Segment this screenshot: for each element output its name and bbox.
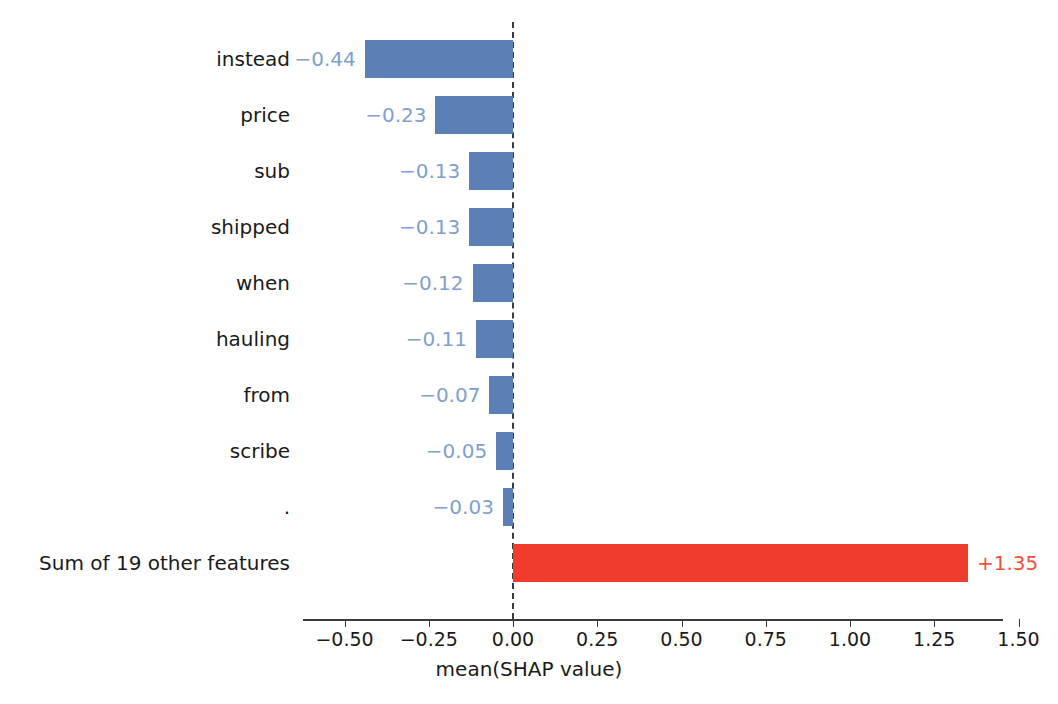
bar-row-label: when: [0, 255, 290, 311]
bar: [476, 320, 513, 358]
x-axis-tick: [850, 619, 851, 627]
bar-row-label: price: [0, 87, 290, 143]
bar-value-label: −0.03: [433, 479, 494, 535]
x-axis-title: mean(SHAP value): [0, 657, 1058, 681]
x-axis-tick-label: 0.00: [492, 628, 534, 650]
x-axis-tick: [934, 619, 935, 627]
bar: [496, 432, 513, 470]
bar: [469, 208, 513, 246]
x-axis-tick-label: 0.75: [745, 628, 787, 650]
bar-row-label: from: [0, 367, 290, 423]
bar-value-label: −0.11: [406, 311, 467, 367]
bar-value-label: −0.13: [399, 199, 460, 255]
bar-row-label: sub: [0, 143, 290, 199]
x-axis-tick: [597, 619, 598, 627]
x-axis-tick-label: −0.25: [400, 628, 458, 650]
bar-row: Sum of 19 other features+1.35: [0, 535, 1058, 591]
x-axis-tick-label: 1.00: [829, 628, 871, 650]
bar-row: when−0.12: [0, 255, 1058, 311]
bar-row-label: .: [0, 479, 290, 535]
bar-row-label: Sum of 19 other features: [0, 535, 290, 591]
bar-value-label: −0.07: [419, 367, 480, 423]
bar: [489, 376, 513, 414]
x-axis-tick: [429, 619, 430, 627]
x-axis-tick: [766, 619, 767, 627]
bar: [469, 152, 513, 190]
bar-row: shipped−0.13: [0, 199, 1058, 255]
plot-area: instead−0.44price−0.23sub−0.13shipped−0.…: [0, 0, 1058, 704]
x-axis-tick-label: 0.50: [660, 628, 702, 650]
bar-value-label: −0.23: [365, 87, 426, 143]
bar-row: sub−0.13: [0, 143, 1058, 199]
bar-row: instead−0.44: [0, 31, 1058, 87]
x-axis-tick-label: 1.50: [997, 628, 1039, 650]
bar-row-label: hauling: [0, 311, 290, 367]
bar-row: .−0.03: [0, 479, 1058, 535]
bar: [513, 544, 968, 582]
bar-row: price−0.23: [0, 87, 1058, 143]
bar-value-label: +1.35: [977, 535, 1038, 591]
bar-row-label: scribe: [0, 423, 290, 479]
bar: [473, 264, 513, 302]
bar-row-label: instead: [0, 31, 290, 87]
x-axis-tick: [513, 619, 514, 627]
bar: [435, 96, 513, 134]
x-axis-tick: [1019, 619, 1020, 627]
bar-row: hauling−0.11: [0, 311, 1058, 367]
bar-value-label: −0.12: [402, 255, 463, 311]
bar-value-label: −0.05: [426, 423, 487, 479]
x-axis-tick: [682, 619, 683, 627]
bar-value-label: −0.44: [294, 31, 355, 87]
x-axis-tick: [345, 619, 346, 627]
bar-row-label: shipped: [0, 199, 290, 255]
x-axis-tick-label: −0.50: [315, 628, 373, 650]
shap-bar-chart-figure: instead−0.44price−0.23sub−0.13shipped−0.…: [0, 0, 1058, 704]
bar: [503, 488, 513, 526]
bar-row: scribe−0.05: [0, 423, 1058, 479]
bar-value-label: −0.13: [399, 143, 460, 199]
bar: [365, 40, 513, 78]
x-axis-tick-label: 1.25: [913, 628, 955, 650]
bar-row: from−0.07: [0, 367, 1058, 423]
x-axis-line: [303, 619, 1003, 621]
x-axis-tick-label: 0.25: [576, 628, 618, 650]
